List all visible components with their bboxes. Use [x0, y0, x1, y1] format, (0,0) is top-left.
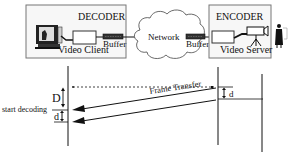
- right-d-label: d: [229, 89, 234, 99]
- decoder-title: DECODER: [78, 11, 126, 22]
- frame-transfer-arrow-2: [82, 100, 216, 121]
- encoder-caption: Video Server: [220, 44, 273, 55]
- decoder-unit: [73, 31, 96, 44]
- start-decoding-label: start decoding: [2, 105, 47, 114]
- monitor-icon: [35, 25, 62, 49]
- decoder-buffer-label: Buffer: [103, 39, 126, 49]
- network-label: Network: [148, 32, 180, 42]
- encoder-unit: [212, 31, 234, 43]
- encoder-buffer-label: Buffer: [186, 39, 209, 49]
- frame-transfer-label: Frame Transfer: [149, 78, 202, 96]
- person-icon: [275, 24, 287, 48]
- decoder-caption: Video Client: [58, 44, 109, 55]
- timing-diagram: d Frame Transfer D start decoding d: [2, 66, 263, 152]
- diagram-canvas: DECODER Video Client Buffer Network Buff…: [0, 0, 294, 154]
- encoder-title: ENCODER: [216, 11, 264, 22]
- big-D-label: D: [52, 91, 61, 105]
- left-d-label: d: [54, 111, 59, 122]
